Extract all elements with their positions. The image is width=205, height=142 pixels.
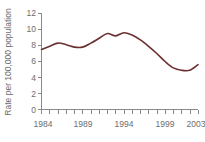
x-axis-ticks [42, 110, 199, 114]
chart-plot-area: Rate per 100,000 population 12 10 8 6 4 … [0, 0, 205, 142]
y-tick-label-4: 4 [31, 73, 36, 83]
x-tick-label-1994: 1994 [115, 119, 134, 129]
data-series-line [42, 33, 199, 71]
y-tick-label-2: 2 [31, 89, 36, 99]
y-tick-label-0: 0 [31, 105, 36, 115]
x-tick-label-2003: 2003 [187, 119, 205, 129]
y-tick-label-12: 12 [27, 8, 37, 18]
y-axis-ticks [38, 14, 42, 110]
x-tick-label-1989: 1989 [74, 119, 93, 129]
y-axis-title: Rate per 100,000 population [3, 8, 13, 116]
y-tick-label-10: 10 [27, 24, 37, 34]
y-tick-label-6: 6 [31, 56, 36, 66]
line-chart-figure: Rate per 100,000 population 12 10 8 6 4 … [0, 0, 205, 142]
x-tick-label-1984: 1984 [34, 119, 53, 129]
x-tick-label-1999: 1999 [156, 119, 175, 129]
y-tick-label-8: 8 [31, 40, 36, 50]
